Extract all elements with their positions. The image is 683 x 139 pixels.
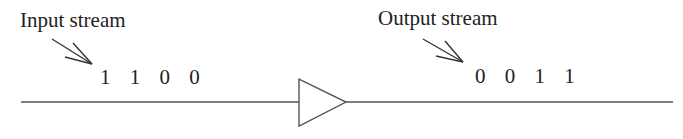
output-pointer-arrow-icon [423, 39, 463, 62]
output-stream-label: Output stream [378, 8, 498, 29]
output-bits: 0 0 1 1 [475, 66, 582, 87]
buffer-triangle-icon [299, 79, 346, 126]
input-bits: 1 1 0 0 [100, 67, 207, 88]
input-pointer-arrow-icon [52, 39, 92, 64]
input-stream-label: Input stream [20, 10, 126, 31]
